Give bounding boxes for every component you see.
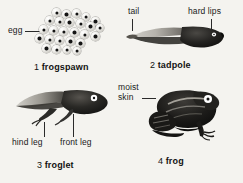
egg: [45, 16, 54, 25]
frog-pupil: [207, 98, 210, 101]
egg: [96, 24, 104, 32]
caption-number: 4: [158, 156, 163, 166]
egg: [59, 27, 68, 36]
caption-name: frogspawn: [42, 62, 89, 72]
egg: [91, 32, 100, 41]
egg: [42, 44, 51, 53]
egg: [49, 26, 58, 35]
froglet-illustration: [14, 86, 112, 130]
callout-label-tail: tail: [128, 7, 139, 17]
caption-tadpole: 2 tadpole: [150, 60, 191, 70]
frog-front-toe-2: [204, 134, 214, 136]
egg: [70, 28, 79, 37]
egg: [65, 18, 74, 27]
froglet-front-leg: [60, 109, 73, 122]
tadpole-illustration: [124, 24, 228, 50]
stage-froglet: hind leg front leg 3 froglet: [0, 78, 120, 183]
frog-life-cycle-diagram: egg: [0, 0, 243, 183]
callout-label-egg: egg: [8, 26, 22, 36]
egg: [66, 37, 75, 46]
caption-name: frog: [166, 156, 184, 166]
caption-name: tadpole: [158, 60, 191, 70]
caption-number: 3: [37, 160, 42, 170]
frog-hind-foot: [152, 130, 184, 137]
egg: [39, 25, 48, 34]
froglet-body: [61, 90, 108, 114]
egg-cluster-illustration: [33, 8, 111, 60]
egg: [35, 34, 44, 43]
callout-leader-hind-leg: [44, 122, 45, 137]
egg: [63, 46, 71, 54]
caption-name: froglet: [45, 160, 74, 170]
stage-frogspawn: egg: [0, 0, 120, 78]
callout-label-skin: skin: [118, 93, 134, 103]
egg: [55, 17, 64, 26]
tadpole-pupil: [213, 34, 215, 36]
froglet-front-foot: [55, 121, 61, 125]
callout-label-hard-lips: hard lips: [188, 7, 221, 17]
frog-front-toe-1: [204, 131, 215, 133]
callout-label-front-leg: front leg: [60, 138, 92, 148]
froglet-pupil: [93, 97, 95, 99]
egg: [45, 35, 54, 44]
caption-frog: 4 frog: [158, 156, 184, 166]
egg: [80, 30, 89, 39]
caption-frogspawn: 1 frogspawn: [34, 62, 89, 72]
callout-label-hind-leg: hind leg: [12, 138, 43, 148]
caption-number: 1: [34, 62, 39, 72]
tadpole-head: [180, 26, 223, 47]
egg: [55, 36, 64, 45]
froglet-hind-leg: [39, 108, 57, 121]
stage-tadpole: tail hard lips: [120, 0, 243, 78]
egg: [86, 22, 95, 31]
caption-number: 2: [150, 60, 155, 70]
callout-leader-front-leg: [73, 114, 74, 137]
egg: [76, 19, 85, 28]
egg: [52, 45, 61, 54]
egg: [73, 47, 81, 55]
stage-frog: moist skin: [120, 78, 243, 183]
egg: [72, 9, 81, 18]
caption-froglet: 3 froglet: [37, 160, 74, 170]
egg: [52, 8, 61, 17]
frog-illustration: [144, 82, 224, 144]
